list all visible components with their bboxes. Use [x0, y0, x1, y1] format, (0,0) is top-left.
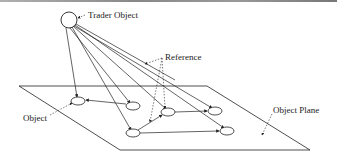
- object-node: [126, 129, 140, 137]
- callout-lines: [50, 15, 272, 135]
- trader-object-label: Trader Object: [88, 10, 138, 20]
- object-node: [220, 127, 234, 135]
- trader-object-node: [61, 12, 77, 28]
- object-links: [86, 100, 219, 133]
- reference-lines: [66, 24, 224, 130]
- object-node: [161, 108, 175, 116]
- object-plane-label: Object Plane: [273, 105, 319, 115]
- object-node: [126, 102, 140, 110]
- object-plane: [19, 86, 310, 150]
- trader-diagram: Trader Object Reference Object Object Pl…: [0, 0, 337, 160]
- object-node: [71, 97, 85, 105]
- object-label: Object: [23, 113, 47, 123]
- reference-label: Reference: [165, 52, 201, 62]
- object-node: [208, 107, 222, 115]
